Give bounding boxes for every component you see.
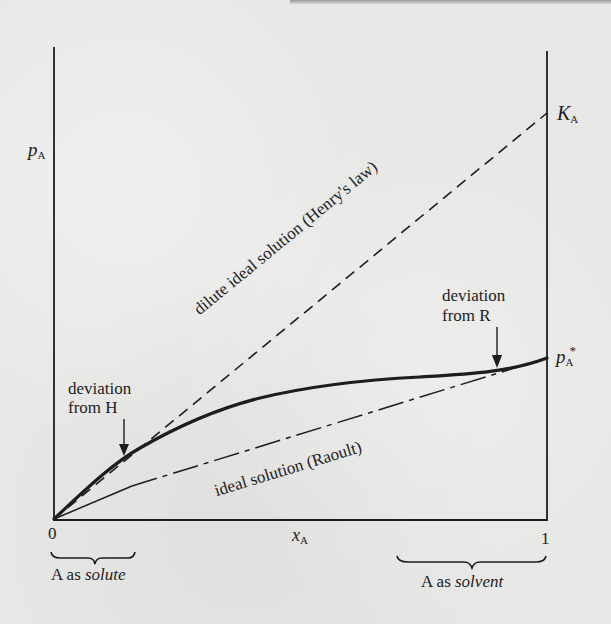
solvent-region-label: A as solvent — [421, 573, 503, 590]
deviation-h-label-line1: deviation — [68, 380, 131, 397]
solute-brace — [51, 552, 135, 564]
deviation-r-arrowhead — [492, 355, 502, 368]
y-axis-label: pA — [28, 140, 45, 161]
solvent-brace — [397, 556, 546, 568]
henry-constant-symbol: K — [557, 102, 570, 124]
solvent-prefix: A as — [421, 572, 451, 591]
y-axis-symbol: p — [28, 139, 38, 160]
solute-region-label: A as solute — [51, 566, 126, 583]
x-axis-subscript: A — [300, 534, 308, 546]
y-axis-subscript: A — [38, 149, 46, 161]
x-tick-max: 1 — [541, 530, 550, 547]
x-tick-min: 0 — [48, 525, 57, 542]
henry-constant-label: KA — [557, 103, 578, 125]
pure-vapour-pressure-label: pA* — [556, 344, 576, 368]
solute-prefix: A as — [51, 565, 81, 584]
pure-vp-superscript: * — [569, 343, 576, 358]
x-axis-label: xA — [292, 526, 308, 546]
henry-constant-subscript: A — [570, 113, 578, 125]
solute-emph: solute — [85, 565, 126, 584]
pure-vp-symbol: p — [556, 346, 566, 367]
deviation-h-label-line2: from H — [68, 399, 118, 416]
x-axis-symbol: x — [292, 525, 300, 545]
deviation-r-label-line1: deviation — [442, 287, 505, 304]
solvent-emph: solvent — [455, 572, 503, 591]
raoult-law-line-solid-part — [54, 486, 132, 519]
deviation-r-label-line2: from R — [442, 307, 491, 324]
